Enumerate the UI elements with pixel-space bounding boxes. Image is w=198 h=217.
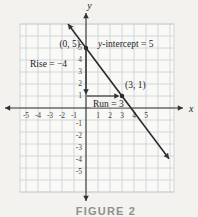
x-tick-label: -5 bbox=[23, 111, 29, 120]
x-axis-right-arrow-icon bbox=[178, 105, 183, 111]
rise-label: Rise = −4 bbox=[30, 59, 67, 69]
x-tick-label: -2 bbox=[59, 111, 65, 120]
y-axis-down-arrow-icon bbox=[83, 196, 89, 201]
point-dot bbox=[84, 46, 88, 50]
second-point-label: (3, 1) bbox=[125, 80, 146, 91]
coordinate-plane: xy-5-4-3-2-11234554321-1-2-3-4-5(0, 5)y-… bbox=[0, 0, 198, 217]
y-tick-label: 4 bbox=[78, 55, 82, 64]
y-tick-label: -4 bbox=[76, 155, 82, 164]
y-tick-label: 1 bbox=[78, 91, 82, 100]
y-tick-label: 2 bbox=[78, 79, 82, 88]
x-tick-label: 3 bbox=[120, 111, 124, 120]
y-axis-up-arrow-icon bbox=[83, 13, 89, 18]
y-tick-label: -5 bbox=[76, 167, 82, 176]
y-intercept-note: y-intercept = 5 bbox=[97, 39, 154, 49]
y-tick-label: -2 bbox=[76, 131, 82, 140]
x-axis-label: x bbox=[188, 103, 194, 114]
x-tick-label: -4 bbox=[35, 111, 41, 120]
y-tick-label: -3 bbox=[76, 143, 82, 152]
x-tick-label: 2 bbox=[108, 111, 112, 120]
x-tick-label: 5 bbox=[144, 111, 148, 120]
point-dot bbox=[120, 94, 124, 98]
y-axis-label: y bbox=[86, 0, 92, 11]
figure-caption: FIGURE 2 bbox=[7, 205, 198, 217]
intercept-point-label: (0, 5) bbox=[59, 39, 80, 50]
run-label: Run = 3 bbox=[93, 99, 124, 109]
y-tick-label: -1 bbox=[76, 119, 82, 128]
x-tick-label: -3 bbox=[47, 111, 53, 120]
x-tick-label: 1 bbox=[96, 111, 100, 120]
x-axis-left-arrow-icon bbox=[5, 105, 10, 111]
y-tick-label: 3 bbox=[78, 67, 82, 76]
figure-page: xy-5-4-3-2-11234554321-1-2-3-4-5(0, 5)y-… bbox=[0, 0, 198, 217]
